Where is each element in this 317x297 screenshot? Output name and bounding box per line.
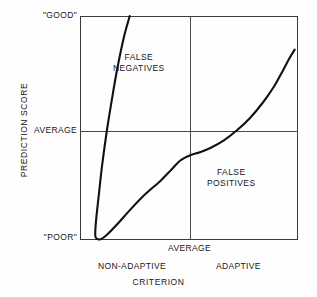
gridline-vertical-average: [190, 16, 191, 240]
annotation-false-negatives: FALSE NEGATIVES: [113, 52, 165, 74]
chart-figure: PREDICTION SCORE "GOOD" AVERAGE "POOR" F…: [0, 0, 317, 297]
annotation-false-positives: FALSE POSITIVES: [207, 167, 255, 189]
annotation-false-negatives-line2: NEGATIVES: [113, 63, 165, 74]
y-tick-label-good: "GOOD": [43, 10, 77, 20]
x-axis-title: CRITERION: [0, 277, 317, 287]
x-tick-label-adaptive: ADAPTIVE: [216, 261, 261, 271]
annotation-false-positives-line2: POSITIVES: [207, 178, 255, 189]
y-axis-title: PREDICTION SCORE: [19, 40, 29, 220]
annotation-false-negatives-line1: FALSE: [113, 52, 165, 63]
x-tick-label-average: AVERAGE: [168, 243, 211, 253]
plot-area-frame: [80, 16, 298, 240]
x-tick-label-non-adaptive: NON-ADAPTIVE: [98, 261, 166, 271]
gridline-horizontal-average: [80, 131, 298, 132]
y-tick-label-poor: "POOR": [44, 232, 77, 242]
y-tick-label-average: AVERAGE: [34, 125, 77, 135]
annotation-false-positives-line1: FALSE: [207, 167, 255, 178]
